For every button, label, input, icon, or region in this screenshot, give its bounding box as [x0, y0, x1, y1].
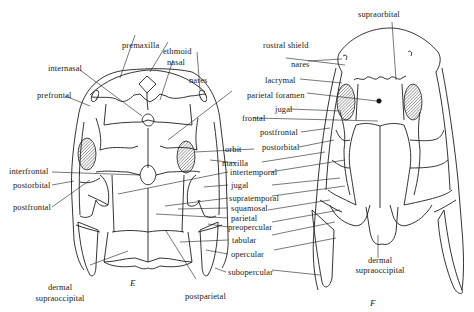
label-ethmoid: ethmoid: [163, 47, 192, 56]
label-tabular: tabular: [232, 236, 256, 245]
label-dermal-e: dermal: [34, 283, 86, 292]
label-postparietal: postparietal: [185, 292, 226, 301]
label-frontal: frontal: [242, 114, 265, 123]
label-opercular: opercular: [231, 250, 264, 259]
label-intertemporal: intertemporal: [230, 168, 277, 177]
label-supraoccipital-e: supraoccipital: [34, 294, 86, 303]
label-parietal-foramen: parietal foramen: [247, 91, 305, 100]
label-nares-e: nares: [189, 76, 207, 85]
label-supratemporal: supratemporal: [229, 194, 279, 203]
label-jugal: jugal: [231, 181, 249, 190]
label-orbit: orbit: [225, 145, 242, 154]
label-postfrontal: postfrontal: [260, 128, 298, 137]
label-interfrontal: interfrontal: [9, 167, 48, 176]
label-lacrymal: lacrymal: [265, 76, 296, 85]
label-postfrontal-e: postfrontal: [13, 203, 51, 212]
label-preopercular: preopercular: [228, 223, 272, 232]
skull-f: [312, 22, 464, 294]
label-squamosal: squamosal: [231, 204, 268, 213]
label-dermal-f: dermal: [354, 256, 406, 265]
label-subopercular: subopercular: [228, 268, 273, 277]
panel-letter-e: E: [130, 278, 136, 288]
label-jugal-top: jugal: [275, 105, 293, 114]
panel-letter-f: F: [370, 298, 376, 308]
skull-e: [71, 69, 228, 276]
label-internasal: internasal: [48, 64, 82, 73]
label-nasal: nasal: [167, 58, 185, 67]
label-postorbital-e: postorbital: [13, 181, 50, 190]
label-prefrontal: prefrontal: [37, 91, 72, 100]
leader-lines: [52, 35, 378, 279]
label-rostral-shield: rostral shield: [263, 41, 309, 50]
label-postorbital: postorbital: [262, 143, 299, 152]
label-supraoccipital-f: supraoccipital: [354, 266, 406, 275]
label-premaxilla: premaxilla: [122, 41, 159, 50]
label-nares-f: nares: [291, 60, 309, 69]
label-supraorbital: supraorbital: [358, 10, 400, 19]
